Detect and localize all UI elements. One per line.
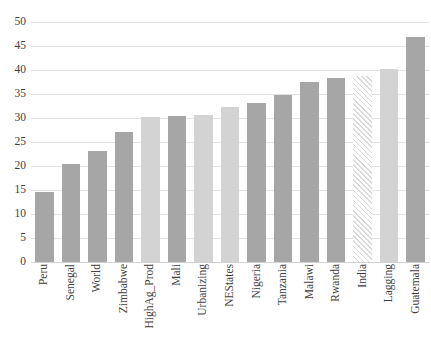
- x-axis-tick-label: Lagging: [383, 264, 395, 302]
- y-axis-tick-label: 35: [0, 88, 26, 100]
- bar-chart: 05101520253035404550 PeruSenegalWorldZim…: [0, 0, 431, 338]
- x-axis-tick-label: Tanzania: [277, 264, 289, 305]
- x-axis-tick-label: NEStates: [224, 264, 236, 307]
- x-axis-tick-label: Rwanda: [330, 264, 342, 302]
- x-axis-tick: Lagging: [376, 264, 403, 338]
- x-axis-tick-label: HighAg_Prod: [145, 264, 157, 329]
- bar-series: [31, 22, 429, 262]
- y-axis-tick-label: 0: [0, 256, 26, 268]
- x-axis-tick-label: Mali: [171, 264, 183, 286]
- bar: [221, 107, 240, 262]
- x-axis-tick-label: Malawi: [304, 264, 316, 299]
- x-axis: PeruSenegalWorldZimbabweHighAg_ProdMaliU…: [31, 264, 429, 338]
- x-axis-tick: Guatemala: [402, 264, 429, 338]
- plot-area: [31, 22, 429, 262]
- x-axis-tick: Zimbabwe: [111, 264, 138, 338]
- x-axis-tick: NEStates: [217, 264, 244, 338]
- bar: [141, 117, 160, 262]
- x-axis-tick: Tanzania: [270, 264, 297, 338]
- y-axis: 05101520253035404550: [0, 0, 30, 338]
- x-axis-tick: Malawi: [296, 264, 323, 338]
- y-axis-tick-label: 40: [0, 64, 26, 76]
- x-axis-tick-label: Guatemala: [410, 264, 422, 314]
- bar: [194, 115, 213, 262]
- bar: [353, 76, 372, 262]
- x-axis-tick-label: Senegal: [65, 264, 77, 300]
- x-axis-tick: Senegal: [58, 264, 85, 338]
- y-axis-tick-label: 45: [0, 40, 26, 52]
- x-axis-tick-label: India: [357, 264, 369, 288]
- x-axis-tick-label: Zimbabwe: [118, 264, 130, 313]
- bar: [247, 103, 266, 262]
- bar: [168, 116, 187, 262]
- x-axis-tick: HighAg_Prod: [137, 264, 164, 338]
- x-axis-tick-label: Peru: [39, 264, 51, 285]
- bar: [406, 37, 425, 262]
- x-axis-tick-label: Urbanizing: [198, 264, 210, 316]
- bar: [62, 164, 81, 262]
- bar: [327, 78, 346, 262]
- bar: [115, 132, 134, 262]
- bar: [35, 192, 54, 262]
- x-axis-tick: Rwanda: [323, 264, 350, 338]
- x-axis-tick: World: [84, 264, 111, 338]
- x-axis-tick-label: World: [92, 264, 104, 292]
- y-axis-tick-label: 50: [0, 16, 26, 28]
- y-axis-tick-label: 15: [0, 184, 26, 196]
- y-axis-tick-label: 25: [0, 136, 26, 148]
- x-axis-tick: Nigeria: [243, 264, 270, 338]
- y-axis-tick-label: 20: [0, 160, 26, 172]
- x-axis-tick: Mali: [164, 264, 191, 338]
- bar: [380, 69, 399, 262]
- x-axis-tick: Peru: [31, 264, 58, 338]
- x-axis-tick: India: [349, 264, 376, 338]
- x-axis-tick-label: Nigeria: [251, 264, 263, 298]
- bar: [88, 151, 107, 262]
- bar: [274, 95, 293, 262]
- y-axis-tick-label: 10: [0, 208, 26, 220]
- y-axis-tick-label: 30: [0, 112, 26, 124]
- bar: [300, 82, 319, 262]
- y-axis-tick-label: 5: [0, 232, 26, 244]
- x-axis-tick: Urbanizing: [190, 264, 217, 338]
